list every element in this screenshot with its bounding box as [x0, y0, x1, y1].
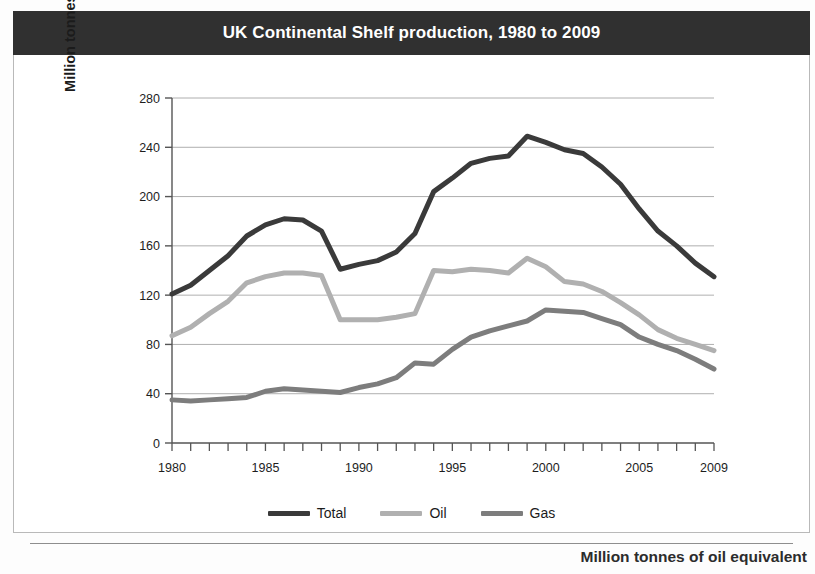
svg-text:120: 120 — [139, 289, 160, 303]
figure-panel: UK Continental Shelf production, 1980 to… — [13, 11, 810, 533]
legend-item-total: Total — [268, 505, 347, 521]
svg-text:200: 200 — [139, 190, 160, 204]
svg-text:1995: 1995 — [438, 461, 466, 475]
data-series — [172, 136, 714, 401]
legend-swatch-oil — [380, 511, 422, 516]
y-axis: 04080120160200240280 — [139, 92, 172, 451]
figure-caption: Million tonnes of oil equivalent — [581, 548, 807, 566]
legend-label-gas: Gas — [530, 505, 556, 521]
svg-text:1990: 1990 — [345, 461, 373, 475]
chart-page: UK Continental Shelf production, 1980 to… — [0, 0, 815, 574]
legend-label-total: Total — [317, 505, 347, 521]
svg-text:1980: 1980 — [158, 461, 186, 475]
svg-text:0: 0 — [153, 437, 160, 451]
chart-title-bar: UK Continental Shelf production, 1980 to… — [13, 11, 810, 55]
chart-title: UK Continental Shelf production, 1980 to… — [223, 23, 601, 43]
svg-text:280: 280 — [139, 92, 160, 106]
legend-label-oil: Oil — [429, 505, 446, 521]
chart-svg: 04080120160200240280 1980198519901995200… — [14, 56, 809, 511]
svg-text:240: 240 — [139, 141, 160, 155]
gridlines — [172, 98, 714, 394]
legend-swatch-gas — [481, 511, 523, 516]
series-line-gas — [172, 310, 714, 401]
svg-text:160: 160 — [139, 239, 160, 253]
svg-text:80: 80 — [146, 338, 160, 352]
plot-area: Million tonnes of oil equivalent 0408012… — [14, 56, 809, 532]
series-line-oil — [172, 258, 714, 350]
chart-legend: Total Oil Gas — [14, 505, 809, 521]
legend-swatch-total — [268, 511, 310, 516]
svg-text:40: 40 — [146, 387, 160, 401]
legend-item-gas: Gas — [481, 505, 556, 521]
x-axis: 1980198519901995200020052009 — [158, 443, 728, 475]
svg-text:2000: 2000 — [532, 461, 560, 475]
legend-item-oil: Oil — [380, 505, 446, 521]
legend-divider — [30, 543, 793, 544]
svg-text:2005: 2005 — [625, 461, 653, 475]
svg-text:1985: 1985 — [252, 461, 280, 475]
svg-text:2009: 2009 — [700, 461, 728, 475]
